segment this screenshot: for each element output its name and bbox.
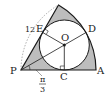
label-radius: 12 xyxy=(25,25,35,34)
angle-pointer xyxy=(36,70,42,76)
angle-denominator: 3 xyxy=(40,85,45,94)
label-E: E xyxy=(36,23,43,34)
label-C: C xyxy=(60,71,68,82)
label-D: D xyxy=(88,23,96,34)
label-A: A xyxy=(96,65,105,76)
label-P: P xyxy=(10,65,17,76)
label-O: O xyxy=(61,32,69,43)
center-point-O xyxy=(63,44,66,47)
geometry-diagram: P A C D E O 12 π 3 xyxy=(0,0,109,102)
angle-numerator: π xyxy=(40,75,45,84)
